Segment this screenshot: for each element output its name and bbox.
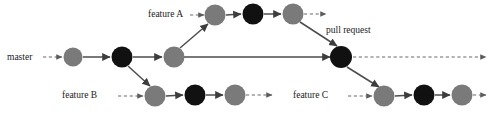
edges-layer bbox=[43, 14, 486, 96]
branch-connector-master-to-featureA bbox=[180, 24, 208, 48]
branch-connector-merge-to-featureC bbox=[347, 67, 379, 87]
pull-request-label: pull request bbox=[326, 25, 371, 35]
branch-label-feature-a: feature A bbox=[148, 9, 183, 19]
commit-edge-a1-a2 bbox=[226, 14, 241, 15]
commit-edge-b1-b2 bbox=[166, 95, 183, 96]
branch-label-feature-b: feature B bbox=[62, 90, 97, 100]
git-graph-canvas: master feature A feature B feature C pul… bbox=[0, 0, 488, 122]
commit-node-c3[interactable] bbox=[452, 85, 473, 106]
branch-label-master: master bbox=[7, 52, 33, 62]
commit-node-a2[interactable] bbox=[243, 4, 264, 25]
commit-node-a3[interactable] bbox=[283, 4, 304, 25]
commit-node-b2[interactable] bbox=[185, 85, 206, 106]
git-branch-diagram: master feature A feature B feature C pul… bbox=[0, 0, 488, 122]
commit-node-m2[interactable] bbox=[112, 47, 133, 68]
commit-node-b3[interactable] bbox=[225, 85, 246, 106]
commit-node-c1[interactable] bbox=[374, 86, 395, 107]
commit-node-a1[interactable] bbox=[205, 5, 226, 26]
commit-node-m3[interactable] bbox=[164, 47, 185, 68]
commit-node-c2[interactable] bbox=[414, 85, 435, 106]
branch-connector-master-to-featureB bbox=[128, 66, 150, 86]
branch-label-feature-c: feature C bbox=[293, 90, 328, 100]
commit-node-b1[interactable] bbox=[145, 86, 166, 107]
commit-edge-c1-c2 bbox=[395, 95, 412, 96]
merge-commit-node[interactable] bbox=[330, 46, 352, 68]
commit-node-m1[interactable] bbox=[64, 48, 83, 67]
nodes-layer bbox=[64, 4, 473, 107]
